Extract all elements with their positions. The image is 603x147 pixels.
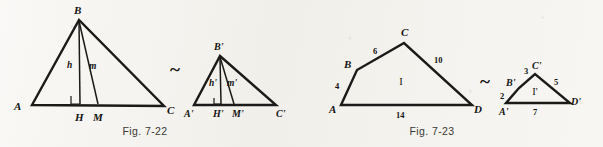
quad-abcd xyxy=(341,43,472,105)
vertex-label-quad-a: A xyxy=(328,103,336,115)
vertex-label-b-prime: B' xyxy=(213,41,224,52)
segment-label-h-prime: h' xyxy=(209,78,217,88)
side-length-ad: 14 xyxy=(396,110,405,120)
segment-label-m-prime: m' xyxy=(227,78,237,88)
vertex-label-quad-a-prime: A' xyxy=(498,106,509,117)
segment-label-m: m xyxy=(89,61,96,71)
right-angle-mark-h-prime xyxy=(214,98,221,104)
side-length-bc-prime: 3 xyxy=(524,66,528,76)
vertex-label-quad-d-prime: D' xyxy=(570,96,581,107)
vertex-label-a: A xyxy=(13,100,21,112)
vertex-label-quad-b-prime: B' xyxy=(505,77,516,88)
segment-label-h: h xyxy=(67,60,72,70)
triangle-abc-outline xyxy=(32,20,164,106)
triangle-abc xyxy=(32,20,164,106)
region-label-i-prime: I' xyxy=(532,86,537,97)
quad-abcd-prime-outline xyxy=(506,74,570,103)
similarity-symbol-1: ~ xyxy=(170,59,180,80)
altitude-bh-segment xyxy=(79,21,80,104)
vertex-label-a-prime: A' xyxy=(183,108,194,119)
side-length-ab: 4 xyxy=(335,81,340,91)
region-label-i: I xyxy=(399,76,403,87)
side-length-bc: 6 xyxy=(373,46,377,56)
side-length-cd-prime: 5 xyxy=(554,77,558,87)
vertex-label-b: B xyxy=(73,4,81,16)
vertex-label-c-prime: C' xyxy=(276,108,286,119)
vertex-label-m-prime: M' xyxy=(231,108,244,119)
vertex-label-c: C xyxy=(167,104,175,116)
altitude-bh-prime-segment xyxy=(220,57,221,104)
side-length-ad-prime: 7 xyxy=(533,107,538,117)
quad-abcd-outline xyxy=(341,43,472,105)
figure-page: A B C H M h m ~ A' B' C' H' M' h' m' Fig… xyxy=(0,0,603,147)
right-angle-mark-h xyxy=(71,96,80,104)
vertex-label-quad-d: D xyxy=(473,103,482,115)
vertex-label-m: M xyxy=(92,111,104,123)
similarity-symbol-2: ~ xyxy=(480,71,490,92)
vertex-label-h: H xyxy=(74,111,84,123)
caption-fig-7-22: Fig. 7-22 xyxy=(122,125,167,137)
vertex-label-quad-c: C xyxy=(401,26,409,38)
vertex-label-quad-c-prime: C' xyxy=(532,60,542,71)
quad-abcd-prime xyxy=(506,74,570,103)
figures-canvas: A B C H M h m ~ A' B' C' H' M' h' m' Fig… xyxy=(0,0,603,147)
side-length-cd: 10 xyxy=(434,55,443,65)
side-length-ab-prime: 2 xyxy=(500,91,504,101)
vertex-label-h-prime: H' xyxy=(212,108,224,119)
vertex-label-quad-b: B xyxy=(343,58,351,70)
caption-fig-7-23: Fig. 7-23 xyxy=(409,125,454,137)
